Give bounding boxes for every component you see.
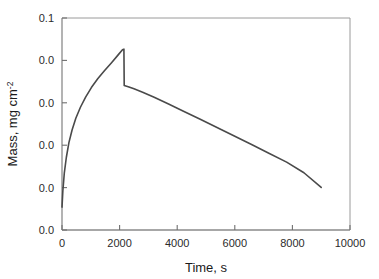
y-tick-label: 0.1 [39, 12, 54, 24]
y-tick-label: 0.0 [39, 97, 54, 109]
x-axis-title: Time, s [185, 260, 228, 275]
y-tick-label: 0.0 [39, 54, 54, 66]
x-tick-label: 8000 [280, 237, 304, 249]
x-tick-label: 6000 [223, 237, 247, 249]
x-tick-label: 10000 [335, 237, 366, 249]
y-axis-title-superscript: -2 [5, 81, 15, 89]
y-axis-title-text: Mass, mg cm [5, 89, 20, 166]
x-tick-label: 0 [59, 237, 65, 249]
y-tick-label: 0.0 [39, 224, 54, 236]
chart-canvas: 0.00.00.00.00.00.1 020004000600080001000… [0, 0, 379, 279]
x-tick-label: 4000 [165, 237, 189, 249]
figure-background [0, 0, 379, 279]
y-tick-label: 0.0 [39, 139, 54, 151]
y-tick-label: 0.0 [39, 182, 54, 194]
chart-figure: 0.00.00.00.00.00.1 020004000600080001000… [0, 0, 379, 279]
y-axis-title: Mass, mg cm-2 [5, 81, 20, 166]
x-tick-label: 2000 [107, 237, 131, 249]
